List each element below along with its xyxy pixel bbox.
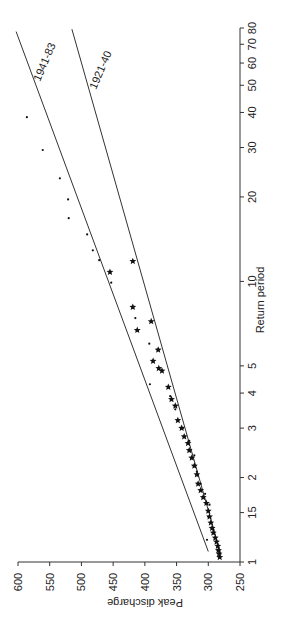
star-marker	[216, 554, 223, 561]
dot-marker	[110, 282, 112, 284]
dot-marker	[92, 249, 94, 251]
star-marker	[212, 534, 219, 541]
return-period-tick-label: 15	[246, 506, 258, 518]
dot-marker	[148, 343, 150, 345]
return-period-tick-label: 3	[246, 425, 258, 431]
dot-marker	[26, 116, 28, 118]
star-marker	[174, 417, 181, 424]
return-period-tick-label: 40	[246, 106, 258, 118]
star-marker	[150, 357, 157, 364]
line-label-1941-83: 1941-83	[31, 41, 58, 83]
return-period-tick-label: 70	[246, 38, 258, 50]
star-marker	[168, 396, 175, 403]
discharge-tick-label: 600	[12, 573, 24, 591]
dot-marker	[86, 233, 88, 235]
fit-lines	[16, 29, 221, 555]
data-points	[26, 116, 223, 560]
dot-marker	[59, 177, 61, 179]
dot-marker	[68, 217, 70, 219]
star-marker	[185, 440, 192, 447]
return-period-tick-label: 50	[246, 79, 258, 91]
discharge-tick-label: 500	[75, 573, 87, 591]
dot-marker	[204, 493, 206, 495]
dot-marker	[206, 539, 208, 541]
discharge-tick-label: 550	[44, 573, 56, 591]
star-marker	[129, 303, 136, 310]
return-period-tick-label: 1	[246, 559, 258, 565]
dot-marker	[193, 454, 195, 456]
dot-marker	[208, 504, 210, 506]
return-period-tick-label: 80	[246, 22, 258, 34]
return-period-tick-label: 30	[246, 141, 258, 153]
return-period-tick-label: 5	[246, 363, 258, 369]
discharge-tick-label: 300	[202, 573, 214, 591]
return-period-tick-label: 4	[246, 390, 258, 396]
frequency-chart: 2503003504004505005506001152345102030405…	[0, 0, 282, 631]
star-marker	[205, 507, 212, 514]
y-axis-title: Peak discharge	[107, 597, 183, 609]
dot-marker	[149, 383, 151, 385]
x-axis-title: Return period	[254, 267, 266, 334]
dot-marker	[67, 198, 69, 200]
dot-marker	[134, 317, 136, 319]
star-marker	[193, 471, 200, 478]
star-marker	[209, 525, 216, 532]
star-marker	[206, 513, 213, 520]
return-period-tick-label: 20	[246, 191, 258, 203]
fit-line-1941-83	[16, 32, 208, 552]
dot-marker	[98, 259, 100, 261]
star-marker	[155, 346, 162, 353]
return-period-tick-label: 60	[246, 57, 258, 69]
star-marker	[107, 268, 114, 275]
dot-marker	[42, 149, 44, 151]
discharge-tick-label: 400	[139, 573, 151, 591]
star-marker	[134, 327, 141, 334]
star-marker	[129, 258, 136, 265]
line-label-1921-40: 1921-40	[87, 49, 114, 91]
return-period-tick-label: 2	[246, 474, 258, 480]
discharge-tick-label: 450	[107, 573, 119, 591]
star-marker	[165, 384, 172, 391]
discharge-tick-label: 350	[171, 573, 183, 591]
dot-marker	[174, 408, 176, 410]
star-marker	[207, 519, 214, 526]
discharge-tick-label: 250	[234, 573, 246, 591]
